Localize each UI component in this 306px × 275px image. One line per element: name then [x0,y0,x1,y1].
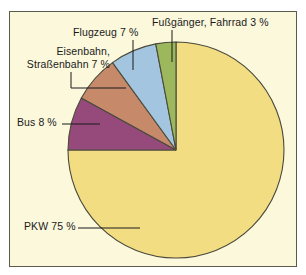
pie-label-bus: Bus 8 % [17,116,57,128]
pie-label-flugzeug: Flugzeug 7 % [73,26,138,38]
pie-label-eisenbahn-line1: Eisenbahn, [16,45,110,58]
pie-label-pkw: PKW 75 % [24,220,76,232]
pie-label-fussgaenger: Fußgänger, Fahrrad 3 % [152,16,269,28]
pie-graphic [0,0,306,275]
pie-label-eisenbahn: Eisenbahn, Straßenbahn 7 % [16,45,110,70]
pie-chart-figure: Fußgänger, Fahrrad 3 % Flugzeug 7 % Eise… [0,0,306,275]
pie-label-eisenbahn-line2: Straßenbahn 7 % [16,58,110,71]
